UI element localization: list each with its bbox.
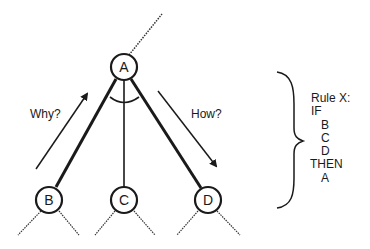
node-d-label: D <box>203 192 213 208</box>
rule-then: THEN <box>310 157 343 171</box>
node-c-label: C <box>119 192 129 208</box>
rule-block: Rule X: IF B C D THEN A <box>310 91 350 185</box>
node-b: B <box>36 187 62 213</box>
node-d: D <box>195 187 221 213</box>
parent-dotted-edge <box>129 14 162 55</box>
rule-title: Rule X: <box>311 91 350 105</box>
why-arrow-icon <box>36 94 87 169</box>
and-tree-diagram: Why? How? A B C D Rule X: IF B C D THEN … <box>0 0 370 249</box>
node-b-label: B <box>44 192 53 208</box>
rule-if: IF <box>311 104 322 118</box>
why-label: Why? <box>30 107 61 121</box>
child-dotted-edges <box>18 211 240 235</box>
rule-condition-d: D <box>321 144 330 158</box>
node-c: C <box>111 187 137 213</box>
how-label: How? <box>191 107 222 121</box>
how-arrow-icon <box>158 91 216 166</box>
rule-conclusion: A <box>321 171 329 185</box>
node-a: A <box>111 54 137 80</box>
curly-brace <box>277 72 303 208</box>
node-a-label: A <box>119 59 129 75</box>
rule-condition-b: B <box>321 118 329 132</box>
rule-condition-c: C <box>321 131 330 145</box>
